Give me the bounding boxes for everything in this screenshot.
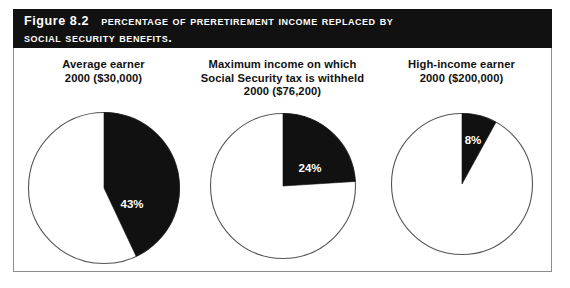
pie-label-line: Average earner bbox=[62, 58, 144, 72]
pie-data-label: 43% bbox=[120, 198, 143, 210]
pie-label-line: 2000 ($200,000) bbox=[408, 72, 515, 86]
pie-label-maximum-income: Maximum income on which Social Security … bbox=[201, 58, 365, 99]
figure-number-label: Figure 8.2 bbox=[24, 14, 89, 28]
pie-panel-high-income-earner: High-income earner 2000 ($200,000) 8% bbox=[372, 49, 551, 271]
pie-label-high-income-earner: High-income earner 2000 ($200,000) bbox=[408, 58, 515, 85]
figure-caption-banner: Figure 8.2 Percentage of preretirement i… bbox=[13, 9, 552, 48]
pie-label-average-earner: Average earner 2000 ($30,000) bbox=[62, 58, 144, 85]
caption-line-1: Figure 8.2 Percentage of preretirement i… bbox=[24, 13, 542, 30]
pie-svg-maximum-income: 24% bbox=[207, 110, 359, 262]
pie-chart-average-earner: 43% bbox=[25, 109, 183, 267]
pie-panel-average-earner: Average earner 2000 ($30,000) 43% bbox=[14, 49, 193, 271]
pie-label-line: 2000 ($76,200) bbox=[201, 85, 365, 99]
figure-8-2: Figure 8.2 Percentage of preretirement i… bbox=[0, 0, 570, 288]
pie-svg-high-income-earner: 8% bbox=[388, 110, 536, 258]
caption-text-line-1: Percentage of preretirement income repla… bbox=[101, 14, 393, 28]
pie-svg-average-earner: 43% bbox=[25, 109, 183, 267]
pie-label-line: Social Security tax is withheld bbox=[201, 72, 365, 86]
caption-line-2: Social Security benefits. bbox=[24, 30, 542, 47]
pie-chart-high-income-earner: 8% bbox=[388, 110, 536, 258]
pie-label-line: Maximum income on which bbox=[201, 58, 365, 72]
caption-text-line-2: Social Security benefits. bbox=[24, 31, 172, 45]
pie-slice-filled bbox=[283, 114, 355, 187]
pie-data-label: 8% bbox=[464, 134, 481, 146]
pie-chart-maximum-income: 24% bbox=[207, 110, 359, 262]
pie-panel-maximum-income: Maximum income on which Social Security … bbox=[193, 49, 372, 271]
pie-label-line: High-income earner bbox=[408, 58, 515, 72]
pie-label-line: 2000 ($30,000) bbox=[62, 72, 144, 86]
pie-chart-panels: Average earner 2000 ($30,000) 43% Maximu… bbox=[14, 49, 551, 271]
pie-data-label: 24% bbox=[298, 162, 321, 174]
